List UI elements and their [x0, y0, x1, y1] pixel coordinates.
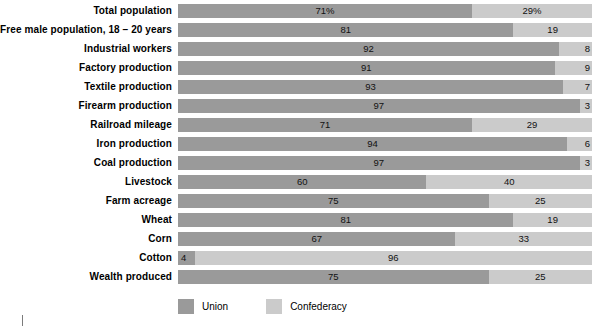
- bar-value-union: 75: [328, 270, 339, 284]
- chart-row: Cotton496: [0, 250, 602, 269]
- bar-segment-union: 94: [178, 137, 567, 151]
- bar-segment-confederacy: 29: [472, 118, 592, 132]
- bar-segment-union: 4: [178, 251, 195, 265]
- bar-value-confederacy: 40: [504, 175, 515, 189]
- chart-row: Industrial workers928: [0, 41, 602, 60]
- bar-value-union: 71%: [315, 4, 334, 18]
- bar-segment-union: 92: [178, 42, 559, 56]
- stacked-bar: 7525: [178, 270, 592, 284]
- chart-row: Factory production919: [0, 60, 602, 79]
- bar-value-union: 97: [374, 99, 385, 113]
- bar-value-confederacy: 9: [585, 61, 590, 75]
- stacked-bar: 8119: [178, 213, 592, 227]
- bar-value-confederacy: 3: [585, 99, 590, 113]
- bar-value-union: 81: [340, 23, 351, 37]
- bar-segment-confederacy: 8: [559, 42, 592, 56]
- bar-value-union: 97: [374, 156, 385, 170]
- chart-row: Firearm production973: [0, 98, 602, 117]
- legend-label-union: Union: [202, 301, 228, 312]
- row-label: Total population: [93, 3, 172, 18]
- chart-row: Farm acreage7525: [0, 193, 602, 212]
- chart-rows: Total population71%29%Free male populati…: [0, 3, 602, 288]
- stacked-bar: 937: [178, 80, 592, 94]
- bar-value-confederacy: 33: [518, 232, 529, 246]
- bar-value-union: 4: [181, 251, 186, 265]
- bar-segment-union: 81: [178, 23, 513, 37]
- bar-segment-union: 91: [178, 61, 555, 75]
- bar-value-confederacy: 25: [535, 194, 546, 208]
- bar-value-confederacy: 19: [547, 23, 558, 37]
- bar-segment-confederacy: 9: [555, 61, 592, 75]
- stacked-bar: 928: [178, 42, 592, 56]
- row-label: Iron production: [97, 136, 172, 151]
- bar-segment-union: 97: [178, 99, 580, 113]
- stacked-bar: 6040: [178, 175, 592, 189]
- legend-item-union[interactable]: Union: [178, 299, 228, 314]
- bar-value-union: 71: [320, 118, 331, 132]
- bar-value-union: 94: [367, 137, 378, 151]
- stacked-bar: 946: [178, 137, 592, 151]
- chart-row: Railroad mileage7129: [0, 117, 602, 136]
- chart-row: Textile production937: [0, 79, 602, 98]
- chart-row: Wealth produced7525: [0, 269, 602, 288]
- chart-row: Iron production946: [0, 136, 602, 155]
- bar-value-confederacy: 29%: [522, 4, 541, 18]
- bar-segment-union: 75: [178, 270, 489, 284]
- bar-value-confederacy: 7: [585, 80, 590, 94]
- bar-value-confederacy: 19: [547, 213, 558, 227]
- chart-row: Wheat8119: [0, 212, 602, 231]
- bar-value-confederacy: 3: [585, 156, 590, 170]
- row-label: Wealth produced: [90, 269, 172, 284]
- bar-segment-confederacy: 33: [455, 232, 592, 246]
- bar-value-union: 75: [328, 194, 339, 208]
- bar-value-confederacy: 96: [388, 251, 399, 265]
- chart-row: Total population71%29%: [0, 3, 602, 22]
- bar-segment-union: 81: [178, 213, 513, 227]
- stacked-bar: 7525: [178, 194, 592, 208]
- bar-segment-confederacy: 40: [426, 175, 592, 189]
- row-label: Factory production: [79, 60, 172, 75]
- row-label: Corn: [148, 231, 172, 246]
- stacked-bar: 919: [178, 61, 592, 75]
- chart-row: Corn6733: [0, 231, 602, 250]
- stacked-bar: 496: [178, 251, 592, 265]
- chart-row: Coal production973: [0, 155, 602, 174]
- stacked-bar: 8119: [178, 23, 592, 37]
- row-label: Railroad mileage: [90, 117, 172, 132]
- bar-value-confederacy: 8: [585, 42, 590, 56]
- bar-value-union: 81: [340, 213, 351, 227]
- stacked-bar-chart: Total population71%29%Free male populati…: [0, 0, 602, 332]
- stacked-bar: 6733: [178, 232, 592, 246]
- stacked-bar: 7129: [178, 118, 592, 132]
- row-label: Livestock: [125, 174, 172, 189]
- bar-value-union: 60: [297, 175, 308, 189]
- row-label: Cotton: [139, 250, 172, 265]
- bar-segment-union: 71: [178, 118, 472, 132]
- row-label: Firearm production: [79, 98, 172, 113]
- bar-segment-confederacy: 25: [489, 270, 593, 284]
- chart-row: Livestock6040: [0, 174, 602, 193]
- bar-segment-confederacy: 7: [563, 80, 592, 94]
- bar-value-confederacy: 29: [527, 118, 538, 132]
- stacked-bar: 71%29%: [178, 4, 592, 18]
- row-label: Coal production: [94, 155, 172, 170]
- chart-legend: Union Confederacy: [178, 299, 347, 314]
- legend-item-confederacy[interactable]: Confederacy: [266, 299, 347, 314]
- row-label: Textile production: [84, 79, 172, 94]
- bar-value-union: 91: [361, 61, 372, 75]
- bar-segment-union: 93: [178, 80, 563, 94]
- bar-segment-confederacy: 19: [513, 213, 592, 227]
- bar-segment-confederacy: 19: [513, 23, 592, 37]
- bar-value-union: 67: [311, 232, 322, 246]
- bar-segment-confederacy: 29%: [472, 4, 592, 18]
- row-label: Farm acreage: [106, 193, 172, 208]
- row-label: Wheat: [142, 212, 173, 227]
- bar-segment-confederacy: 96: [195, 251, 592, 265]
- stacked-bar: 973: [178, 156, 592, 170]
- bar-segment-union: 67: [178, 232, 455, 246]
- corner-tick-mark: [22, 315, 23, 326]
- bar-segment-confederacy: 25: [489, 194, 593, 208]
- bar-segment-union: 75: [178, 194, 489, 208]
- chart-row: Free male population, 18 – 20 years8119: [0, 22, 602, 41]
- bar-segment-confederacy: 3: [580, 156, 592, 170]
